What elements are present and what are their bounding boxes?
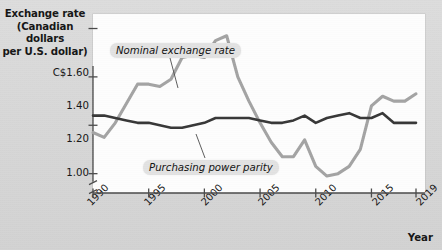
series-label-purchasing-power-parity: Purchasing power parity	[143, 160, 279, 175]
series-label-nominal-exchange-rate: Nominal exchange rate	[110, 43, 241, 58]
chart-canvas	[0, 0, 442, 250]
exchange-rate-chart-figure: Exchange rate (Canadian dollars per U.S.…	[0, 0, 442, 250]
